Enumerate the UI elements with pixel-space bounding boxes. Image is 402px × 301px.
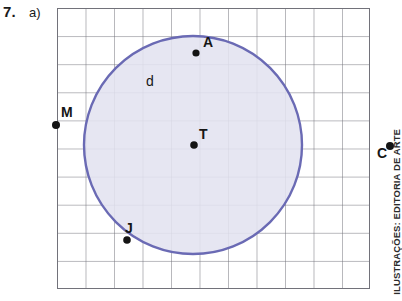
point-label-a: A: [203, 35, 213, 49]
point-marker-a: [192, 49, 199, 56]
point-marker-t: [190, 141, 198, 149]
circle-label-d: d: [146, 74, 154, 88]
exercise-figure: 7. a) d A T J M: [0, 0, 402, 301]
point-label-j: J: [125, 221, 133, 235]
point-marker-j: [123, 236, 131, 244]
grid-panel: d A T J: [57, 8, 370, 289]
exercise-number: 7.: [3, 4, 16, 19]
point-label-m: M: [61, 105, 73, 119]
point-label-t: T: [199, 127, 208, 141]
point-label-c: C: [377, 146, 387, 160]
geometry-diagram: [57, 8, 370, 289]
illustration-credit: ILUSTRAÇÕES: EDITORIA DE ARTE: [392, 129, 402, 295]
exercise-item-letter: a): [29, 6, 41, 19]
